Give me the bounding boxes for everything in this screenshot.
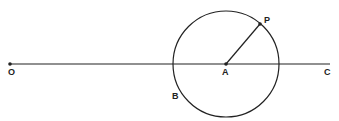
- label-b: B: [172, 91, 179, 101]
- label-c: C: [324, 67, 331, 77]
- label-o: O: [8, 67, 15, 77]
- radius-ap: [226, 24, 260, 64]
- label-a: A: [222, 67, 229, 77]
- label-p: P: [264, 15, 270, 25]
- point-o: [8, 62, 12, 66]
- point-a: [224, 62, 228, 66]
- geometry-diagram: O A P B C: [0, 0, 339, 121]
- point-p: [258, 22, 262, 26]
